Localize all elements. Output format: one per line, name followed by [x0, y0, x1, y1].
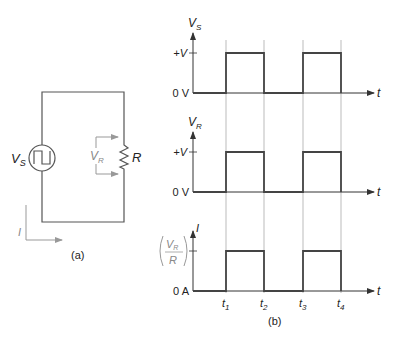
svg-text:t1: t1 — [222, 297, 230, 312]
square-wave-source-icon — [29, 145, 55, 171]
current-label: I — [18, 226, 21, 238]
svg-text:t2: t2 — [260, 297, 268, 312]
high-label: +V — [173, 146, 188, 158]
resistor-label: R — [132, 150, 141, 165]
high-label: +V — [173, 47, 188, 59]
svg-text:t: t — [377, 185, 381, 199]
caption-a: (a) — [71, 249, 84, 261]
svg-text:VR: VR — [166, 238, 178, 251]
zero-label: 0 A — [173, 285, 190, 297]
svg-text:R: R — [169, 254, 177, 266]
zero-label: 0 V — [172, 186, 189, 198]
waveform-vr: VR +V 0 V t — [172, 115, 381, 199]
circuit: VS R VR I (a) — [11, 92, 141, 261]
time-tick-labels: t1 t2 t3 t4 — [222, 297, 345, 312]
svg-text:VR: VR — [188, 115, 202, 131]
waveforms: VS +V 0 V t VR +V 0 V t I — [160, 16, 381, 327]
svg-text:I: I — [196, 222, 199, 234]
vr-label: VR — [90, 149, 104, 165]
source-label: VS — [11, 151, 26, 168]
waveform-vs: VS +V 0 V t — [172, 16, 381, 100]
diagram-canvas: VS R VR I (a) VS — [0, 0, 395, 344]
svg-text:VS: VS — [188, 16, 202, 32]
vr-over-r-label: VR R — [160, 236, 187, 266]
svg-text:t4: t4 — [337, 297, 345, 312]
svg-text:t3: t3 — [299, 297, 307, 312]
svg-text:t: t — [377, 284, 381, 298]
zero-label: 0 V — [172, 87, 189, 99]
caption-b: (b) — [268, 315, 281, 327]
time-gridlines — [226, 40, 341, 293]
waveform-current: I VR R 0 A t — [160, 222, 381, 298]
t-axis-label: t — [377, 86, 381, 100]
resistor-icon — [120, 143, 128, 170]
